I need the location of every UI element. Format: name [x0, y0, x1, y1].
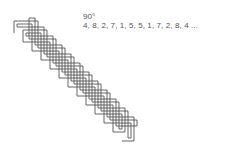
step-sequence-label: 4, 8, 2, 7, 1, 5, 5, 1, 7, 2, 8, 4 ...	[83, 21, 198, 30]
turn-angle-label: 90°	[83, 12, 95, 21]
turtle-path	[14, 18, 137, 141]
